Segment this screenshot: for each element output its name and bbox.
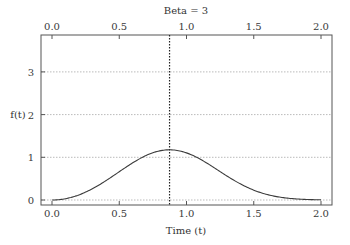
top-x-tick-label: 0.0 [44, 21, 60, 32]
x-tick-label: 0.5 [111, 208, 127, 219]
y-axis-label: f(t) [10, 109, 26, 120]
tick-marks [41, 35, 321, 205]
top-x-tick-labels: 0.00.51.01.52.0 [44, 21, 329, 32]
x-tick-label: 1.0 [179, 208, 195, 219]
y-tick-label: 1 [28, 152, 34, 163]
x-tick-label: 1.5 [246, 208, 262, 219]
y-tick-label: 0 [28, 195, 34, 206]
y-tick-label: 2 [28, 110, 34, 121]
weibull-chart: Beta = 3 0.00.51.01.52.0 0123 0.00.51.01… [0, 0, 350, 245]
x-tick-label: 2.0 [313, 208, 329, 219]
y-tick-label: 3 [28, 67, 34, 78]
grid-lines [41, 72, 332, 200]
top-x-tick-label: 1.0 [179, 21, 195, 32]
x-tick-labels: 0.00.51.01.52.0 [44, 208, 329, 219]
top-x-tick-label: 2.0 [313, 21, 329, 32]
x-axis-label: Time (t) [166, 225, 206, 236]
y-tick-labels: 0123 [28, 67, 34, 206]
chart-title: Beta = 3 [164, 5, 208, 16]
top-x-tick-label: 1.5 [246, 21, 262, 32]
x-tick-label: 0.0 [44, 208, 60, 219]
top-x-tick-label: 0.5 [111, 21, 127, 32]
plot-frame [41, 35, 332, 205]
